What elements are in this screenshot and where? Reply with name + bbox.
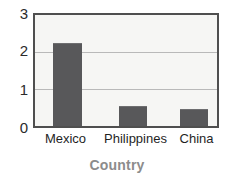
x-axis-category-label-mexico: Mexico	[28, 131, 103, 147]
y-axis-tick-label-0: 0	[6, 120, 28, 135]
bar-mexico	[53, 43, 82, 126]
x-axis-title: Country	[0, 157, 234, 174]
y-axis-tick-label-2: 2	[6, 43, 28, 58]
x-axis-category-label-china: China	[159, 131, 234, 147]
plot-inner	[35, 15, 217, 126]
bar-china	[180, 109, 208, 126]
bar-chart-figure: 3 2 1 0 Mexico Philippines China Country	[0, 0, 234, 186]
plot-area	[33, 13, 219, 128]
bar-philippines	[119, 106, 147, 126]
y-axis-tick-label-3: 3	[6, 6, 28, 21]
y-axis-tick-label-1: 1	[6, 82, 28, 97]
